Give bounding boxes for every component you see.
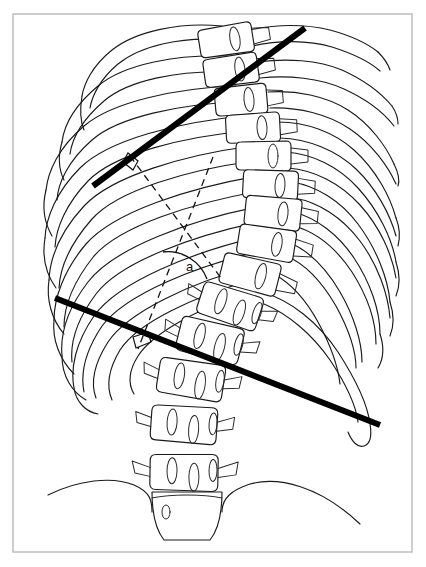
cobb-angle-label: a (186, 259, 194, 274)
cobb-angle-figure: a (0, 0, 426, 567)
spine-illustration-svg: a (0, 0, 426, 567)
floating-rib-right (262, 292, 371, 446)
sacrum (152, 492, 222, 540)
